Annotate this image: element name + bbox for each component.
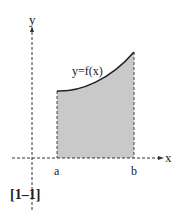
b-label: b bbox=[131, 164, 137, 178]
curve-label: y=f(x) bbox=[72, 64, 103, 78]
figure-caption: [1–1] bbox=[10, 187, 40, 202]
y-axis-label: y bbox=[29, 12, 36, 27]
x-axis-label: x bbox=[165, 150, 172, 165]
x-axis-arrow-icon bbox=[158, 156, 164, 160]
area-under-curve-diagram: y x y=f(x) a b [1–1] bbox=[0, 0, 182, 219]
a-label: a bbox=[54, 164, 60, 178]
